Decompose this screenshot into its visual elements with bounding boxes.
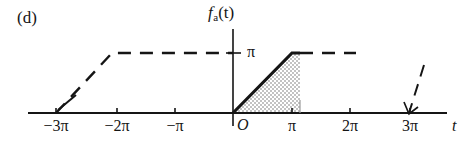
x-tick-label-2pi: 2π [331,118,369,134]
panel-label: (d) [17,9,37,26]
x-tick-label-neg2pi: −2π [97,118,137,134]
x-tick-label-negpi: −π [157,118,193,134]
x-tick-label-pi: π [276,118,308,134]
dashed-curve-right-descent [409,65,424,113]
dashed-rise-arrowhead [58,95,76,110]
x-tick-label-neg3pi: −3π [36,118,76,134]
x-tick-label-3pi: 3π [391,118,429,134]
x-axis-label: t [452,118,456,134]
y-tick-label-pi: π [247,44,255,60]
function-argument: (t) [218,3,234,22]
origin-label: O [237,117,249,133]
dashed-curve-left [56,53,233,113]
function-title: fa(t) [208,4,234,23]
figure-panel: (d) fa(t) π O t −3π −2π −π π 2π 3π [0,0,476,149]
